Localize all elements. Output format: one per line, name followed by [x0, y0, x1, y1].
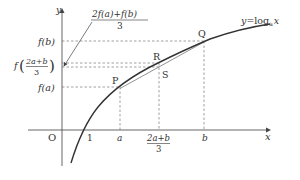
- point-label-s: S: [162, 69, 169, 80]
- x-tick-mid-numerator: 2a+b: [146, 133, 170, 143]
- callout-arrow: [64, 22, 92, 66]
- y-tick-fmid-numerator: 2a+b: [25, 57, 48, 66]
- point-label-q: Q: [198, 28, 206, 39]
- y-axis-label: y: [55, 5, 62, 15]
- callout-denominator: 3: [117, 21, 123, 31]
- log-curve-diagram: y x O 1 a 2a+b 3 b f(b) f ( 2a+b 3 ) f(a…: [0, 0, 300, 180]
- y-tick-fmid-close-paren: ): [49, 57, 55, 75]
- x-axis-label: x: [265, 131, 271, 142]
- y-tick-fa: f(a): [37, 82, 55, 93]
- origin-label: O: [48, 132, 56, 143]
- curve-label-base: a: [269, 20, 273, 27]
- x-tick-mid-denominator: 3: [156, 144, 161, 154]
- chord-pq: [120, 42, 204, 89]
- curve-label-main: =log: [246, 15, 269, 26]
- x-tick-b: b: [202, 133, 208, 143]
- point-label-r: R: [153, 51, 161, 62]
- point-label-p: P: [112, 75, 119, 86]
- diagram-canvas: y x O 1 a 2a+b 3 b f(b) f ( 2a+b 3 ) f(a…: [0, 0, 300, 180]
- y-tick-fb: f(b): [37, 36, 55, 47]
- y-tick-fmid-denominator: 3: [34, 68, 39, 77]
- y-tick-fmid-open-paren: (: [19, 57, 25, 75]
- curve-label-var: x: [274, 15, 280, 26]
- svg-text:y=logax: y=logax: [240, 15, 280, 27]
- callout-numerator: 2f(a)+f(b): [91, 9, 138, 19]
- x-tick-one: 1: [87, 133, 93, 143]
- dashed-guides: [62, 41, 204, 130]
- log-curve: [71, 24, 270, 163]
- x-tick-a: a: [117, 133, 122, 143]
- curve-equation-label: y=logax: [240, 15, 280, 27]
